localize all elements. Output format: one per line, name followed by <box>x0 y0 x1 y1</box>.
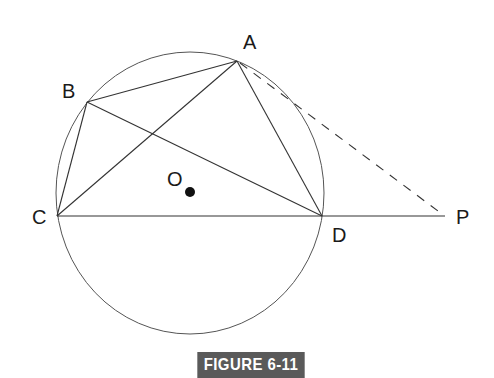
label-b: B <box>62 80 75 102</box>
label-a: A <box>243 31 257 53</box>
segment-ab <box>87 61 237 102</box>
label-o: O <box>167 168 183 190</box>
center-o-dot <box>185 187 195 197</box>
label-d: D <box>332 224 346 246</box>
segment-bd <box>87 102 322 216</box>
segment-bc <box>57 102 87 216</box>
segment-da <box>237 61 322 216</box>
segment-ac <box>57 61 237 216</box>
figure-caption: FIGURE 6-11 <box>197 352 304 378</box>
geometry-diagram: A B C D P O <box>0 0 494 378</box>
label-c: C <box>32 206 46 228</box>
label-p: P <box>456 206 469 228</box>
tangent-ap-dashed <box>240 63 438 211</box>
